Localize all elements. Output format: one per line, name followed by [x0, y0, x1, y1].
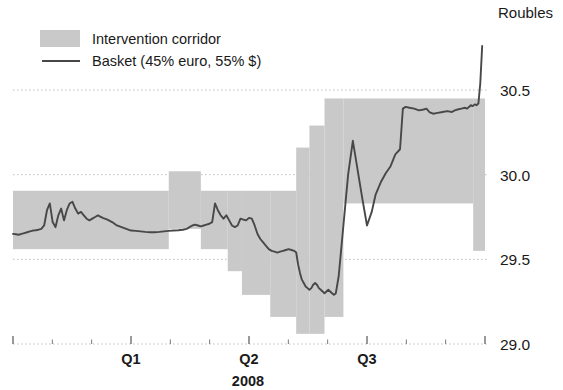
y-tick-label: 30.5: [500, 82, 530, 99]
corridor-step: [242, 191, 270, 295]
y-tick-label: 30.0: [500, 167, 531, 184]
chart-figure: 29.029.530.030.5 Q1Q2Q3 Roubles 2008 Int…: [0, 0, 563, 390]
corridor-step: [343, 98, 473, 203]
x-tick-label: Q3: [357, 351, 376, 367]
legend-label-basket: Basket (45% euro, 55% $): [92, 53, 261, 69]
y-tick-label: 29.0: [500, 336, 531, 353]
corridor-step: [169, 171, 201, 229]
x-tick-label: Q2: [239, 351, 258, 367]
corridor-step: [325, 98, 344, 316]
corridor-step: [201, 191, 228, 249]
corridor-step: [270, 191, 296, 317]
corridor-step: [309, 126, 324, 334]
x-tick-label: Q1: [121, 351, 140, 367]
corridor-step: [296, 148, 309, 334]
legend-label-corridor: Intervention corridor: [92, 31, 221, 47]
exchange-rate-corridor-chart: 29.029.530.030.5 Q1Q2Q3 Roubles 2008 Int…: [0, 0, 563, 390]
corridor-step: [473, 98, 485, 250]
legend-swatch-corridor: [40, 30, 80, 47]
y-tick-label: 29.5: [500, 251, 530, 268]
x-axis-title: 2008: [232, 373, 264, 389]
y-axis-title: Roubles: [498, 4, 553, 21]
corridor-step: [228, 191, 242, 271]
